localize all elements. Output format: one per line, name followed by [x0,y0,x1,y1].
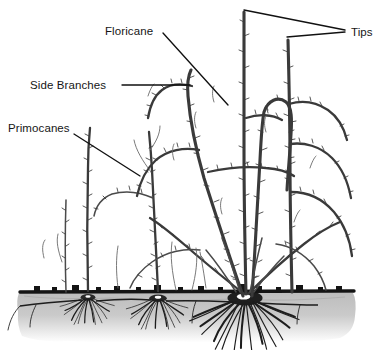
label-primocanes: Primocanes [8,122,70,134]
label-floricane: Floricane [105,25,153,37]
label-tips: Tips [351,26,373,38]
bramble-diagram: Floricane Tips Side Branches Primocanes [0,0,379,350]
diagram-canvas: Floricane Tips Side Branches Primocanes [0,0,379,350]
label-side-branches: Side Branches [30,79,106,91]
